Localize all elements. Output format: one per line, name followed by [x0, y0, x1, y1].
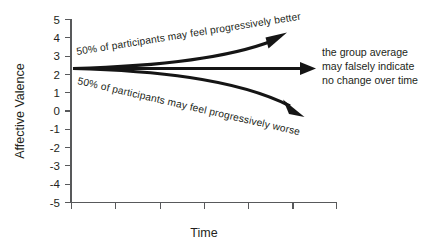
y-axis-title: Affective Valence	[13, 63, 27, 158]
y-tick-label-0: 0	[54, 105, 60, 117]
right-note: the group average may falsely indicate n…	[322, 46, 418, 86]
group-average-arrowhead	[300, 62, 316, 75]
y-tick-label-neg2: -2	[50, 142, 60, 154]
worsening-half-arrowhead	[283, 100, 305, 118]
right-note-line-2: may falsely indicate	[322, 60, 415, 72]
x-axis: Time	[71, 203, 337, 241]
improving-half-arrowhead	[266, 33, 288, 49]
right-note-line-1: the group average	[322, 46, 408, 58]
x-axis-title: Time	[190, 226, 217, 240]
y-tick-label-3: 3	[54, 50, 60, 62]
y-tick-label-4: 4	[54, 32, 61, 44]
y-tick-label-neg3: -3	[50, 160, 60, 172]
y-tick-label-neg4: -4	[50, 178, 61, 190]
y-tick-label-neg1: -1	[50, 123, 60, 135]
y-tick-label-2: 2	[54, 69, 60, 81]
upper-curve-label: 50% of participants may feel progressive…	[76, 11, 302, 57]
y-tick-label-1: 1	[54, 87, 60, 99]
y-tick-label-neg5: -5	[50, 197, 60, 209]
lower-curve-label: 50% of participants may feel progressive…	[77, 75, 302, 137]
chart-figure: 5 4 3 2 1 0 -1 -2 -3 -4 -5 Affective Val…	[0, 0, 438, 248]
right-note-line-3: no change over time	[322, 74, 418, 86]
y-tick-label-5: 5	[54, 14, 60, 26]
y-axis: 5 4 3 2 1 0 -1 -2 -3 -4 -5 Affective Val…	[13, 14, 71, 209]
affective-valence-chart: 5 4 3 2 1 0 -1 -2 -3 -4 -5 Affective Val…	[0, 0, 438, 248]
